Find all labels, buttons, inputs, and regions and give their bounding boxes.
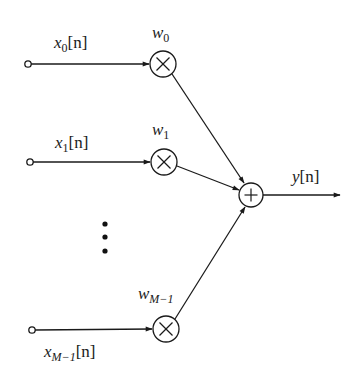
ellipsis-dots: [102, 221, 107, 253]
output-label: y[n]: [290, 167, 319, 186]
input-label-0: x0[n]: [53, 33, 87, 55]
product-arrow-0: [172, 74, 244, 183]
input-label-1: x1[n]: [54, 133, 88, 155]
linear-combiner-diagram: x0[n] w0 x1[n] w1: [0, 0, 361, 378]
branch-1: x1[n] w1: [27, 120, 239, 190]
product-arrow-1: [177, 166, 239, 190]
input-node-0: [25, 61, 31, 67]
plus-icon: [239, 183, 263, 207]
input-label-m-minus-1: xM−1[n]: [43, 342, 95, 364]
input-node-m-minus-1: [29, 327, 35, 333]
product-arrow-m-minus-1: [175, 207, 245, 319]
adder: y[n]: [239, 167, 340, 207]
input-node-1: [27, 159, 33, 165]
branch-m-minus-1: xM−1[n] wM−1: [29, 207, 245, 364]
multiply-icon-m-minus-1: [153, 316, 179, 342]
multiply-icon-0: [150, 51, 176, 77]
weight-label-0: w0: [152, 23, 169, 45]
weight-label-1: w1: [152, 120, 169, 142]
weight-label-m-minus-1: wM−1: [138, 284, 173, 306]
multiply-icon-1: [151, 149, 177, 175]
input-arrow-m-minus-1: [35, 329, 152, 330]
branch-0: x0[n] w0: [25, 23, 244, 183]
